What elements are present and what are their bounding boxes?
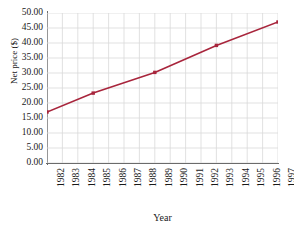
x-tick-label: 1992 <box>210 168 220 208</box>
x-tick-label: 1989 <box>164 168 174 208</box>
x-tick-label: 1984 <box>87 168 97 208</box>
x-axis-tick-labels: 1982198319841985198619871988198919901991… <box>0 0 294 233</box>
x-tick-label: 1997 <box>287 168 294 208</box>
x-tick-label: 1991 <box>195 168 205 208</box>
x-tick-label: 1996 <box>272 168 282 208</box>
line-chart-figure: Net price ($) 0.005.0010.0015.0020.0025.… <box>0 0 294 233</box>
x-tick-label: 1986 <box>118 168 128 208</box>
x-tick-label: 1983 <box>71 168 81 208</box>
x-tick-label: 1995 <box>256 168 266 208</box>
x-axis-title: Year <box>47 212 278 223</box>
x-tick-label: 1988 <box>148 168 158 208</box>
x-tick-label: 1987 <box>133 168 143 208</box>
x-tick-label: 1993 <box>225 168 235 208</box>
x-tick-label: 1994 <box>241 168 251 208</box>
x-tick-label: 1982 <box>56 168 66 208</box>
x-tick-label: 1985 <box>102 168 112 208</box>
x-tick-label: 1990 <box>179 168 189 208</box>
